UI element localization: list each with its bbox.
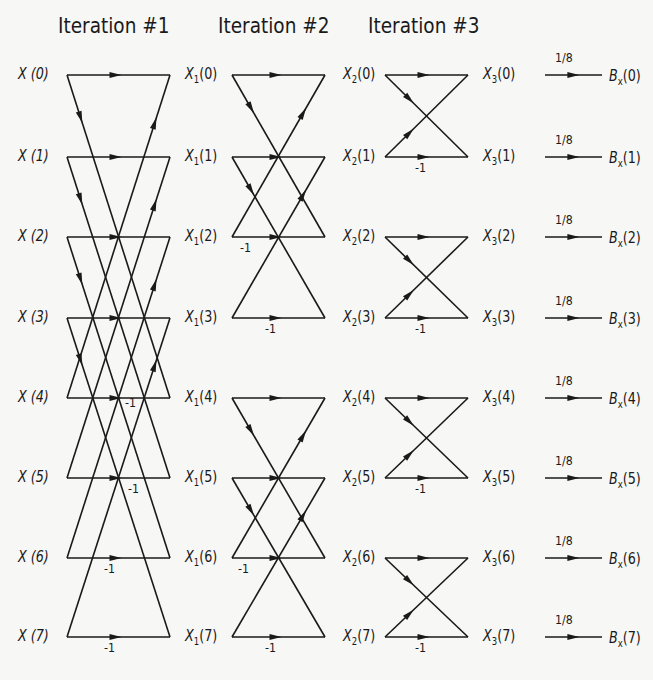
output-label: Bx(0) bbox=[609, 67, 641, 91]
twiddle-label: -1 bbox=[415, 322, 426, 336]
stage2-label: X2(4) bbox=[343, 388, 375, 412]
arrowhead-icon bbox=[297, 509, 308, 522]
twiddle-label: -1 bbox=[415, 482, 426, 496]
arrowhead-icon bbox=[245, 101, 256, 114]
scale-factor-label: 1/8 bbox=[555, 294, 573, 308]
arrowhead-icon bbox=[418, 395, 430, 401]
twiddle-label: -1 bbox=[265, 641, 276, 655]
stage3-label: X3(5) bbox=[483, 468, 515, 492]
title-iteration-3: Iteration #3 bbox=[368, 14, 480, 38]
stage2-label: X2(0) bbox=[343, 65, 375, 89]
title-iteration-1: Iteration #1 bbox=[58, 14, 170, 38]
arrowhead-icon bbox=[567, 72, 579, 78]
input-label: X (2) bbox=[18, 227, 49, 245]
arrowhead-icon bbox=[110, 72, 122, 78]
arrowhead-icon bbox=[418, 234, 430, 240]
scale-factor-label: 1/8 bbox=[555, 51, 573, 65]
arrowhead-icon bbox=[245, 424, 256, 437]
twiddle-label: -1 bbox=[240, 241, 251, 255]
scale-factor-label: 1/8 bbox=[555, 374, 573, 388]
arrowhead-icon bbox=[76, 272, 85, 285]
input-label: X (1) bbox=[18, 147, 49, 165]
output-label: Bx(4) bbox=[609, 390, 641, 414]
arrowhead-icon bbox=[76, 111, 85, 124]
arrowhead-icon bbox=[150, 116, 159, 129]
scale-factor-label: 1/8 bbox=[555, 133, 573, 147]
arrowhead-icon bbox=[76, 192, 85, 205]
twiddle-label: -1 bbox=[125, 396, 136, 410]
stage3-label: X3(1) bbox=[483, 147, 515, 171]
stage3-label: X3(6) bbox=[483, 548, 515, 572]
arrowhead-icon bbox=[418, 72, 430, 78]
output-label: Bx(1) bbox=[609, 149, 641, 173]
output-label: Bx(3) bbox=[609, 310, 641, 334]
arrowhead-icon bbox=[245, 183, 256, 196]
input-label: X (0) bbox=[18, 65, 49, 83]
stage1-label: X1(7) bbox=[185, 627, 217, 651]
arrowhead-icon bbox=[567, 154, 579, 160]
input-label: X (6) bbox=[18, 548, 49, 566]
stage2-label: X2(3) bbox=[343, 308, 375, 332]
arrowhead-icon bbox=[567, 634, 579, 640]
scale-factor-label: 1/8 bbox=[555, 213, 573, 227]
scale-factor-label: 1/8 bbox=[555, 454, 573, 468]
output-label: Bx(2) bbox=[609, 229, 641, 253]
arrowhead-icon bbox=[270, 395, 282, 401]
arrowhead-icon bbox=[567, 315, 579, 321]
output-label: Bx(6) bbox=[609, 550, 641, 574]
twiddle-label: -1 bbox=[265, 322, 276, 336]
arrowhead-icon bbox=[567, 234, 579, 240]
stage3-label: X3(2) bbox=[483, 227, 515, 251]
stage1-label: X1(0) bbox=[185, 65, 217, 89]
arrowhead-icon bbox=[567, 555, 579, 561]
arrowhead-icon bbox=[418, 555, 430, 561]
output-label: Bx(5) bbox=[609, 470, 641, 494]
input-label: X (4) bbox=[18, 388, 49, 406]
input-label: X (5) bbox=[18, 468, 49, 486]
twiddle-label: -1 bbox=[104, 641, 115, 655]
stage3-label: X3(3) bbox=[483, 308, 515, 332]
stage2-label: X2(7) bbox=[343, 627, 375, 651]
twiddle-label: -1 bbox=[415, 161, 426, 175]
scale-factor-label: 1/8 bbox=[555, 613, 573, 627]
scale-factor-label: 1/8 bbox=[555, 534, 573, 548]
arrowhead-icon bbox=[150, 198, 159, 211]
stage3-label: X3(0) bbox=[483, 65, 515, 89]
input-label: X (3) bbox=[18, 308, 49, 326]
arrowhead-icon bbox=[270, 72, 282, 78]
twiddle-label: -1 bbox=[128, 482, 139, 496]
stage1-label: X1(6) bbox=[185, 548, 217, 572]
stage3-label: X3(7) bbox=[483, 627, 515, 651]
twiddle-label: -1 bbox=[238, 562, 249, 576]
stage1-label: X1(4) bbox=[185, 388, 217, 412]
stage2-label: X2(6) bbox=[343, 548, 375, 572]
arrowhead-icon bbox=[567, 395, 579, 401]
arrowhead-icon bbox=[567, 475, 579, 481]
stage1-label: X1(3) bbox=[185, 308, 217, 332]
twiddle-label: -1 bbox=[104, 562, 115, 576]
twiddle-label: -1 bbox=[415, 641, 426, 655]
arrowhead-icon bbox=[245, 504, 256, 517]
stage3-label: X3(4) bbox=[483, 388, 515, 412]
arrowhead-icon bbox=[297, 107, 308, 120]
stage2-label: X2(1) bbox=[343, 147, 375, 171]
title-iteration-2: Iteration #2 bbox=[218, 14, 330, 38]
stage2-label: X2(2) bbox=[343, 227, 375, 251]
arrowhead-icon bbox=[297, 429, 308, 442]
input-label: X (7) bbox=[18, 627, 49, 645]
butterfly-diagram bbox=[0, 0, 653, 680]
output-label: Bx(7) bbox=[609, 629, 641, 653]
stage1-label: X1(2) bbox=[185, 227, 217, 251]
stage1-label: X1(1) bbox=[185, 147, 217, 171]
arrowhead-icon bbox=[110, 154, 122, 160]
arrowhead-icon bbox=[150, 278, 159, 291]
stage2-label: X2(5) bbox=[343, 468, 375, 492]
stage1-label: X1(5) bbox=[185, 468, 217, 492]
